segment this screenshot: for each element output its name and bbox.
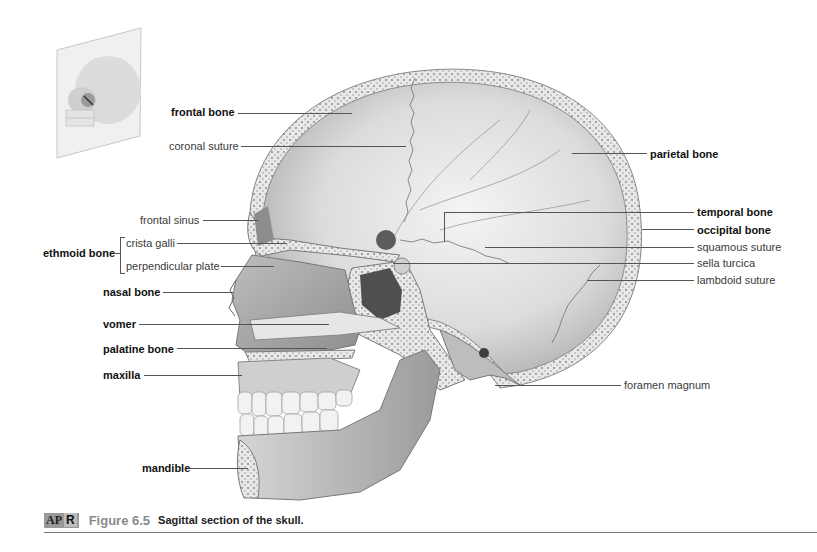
- leader-lambdoid-suture: [587, 280, 694, 281]
- leader-crista-galli: [177, 243, 287, 244]
- leader-temporal-bone: [444, 212, 694, 213]
- label-parietal-bone: parietal bone: [650, 148, 718, 161]
- apr-badge: APR: [44, 513, 79, 528]
- ethmoid-bracket: [120, 237, 125, 274]
- leader-occipital-bone: [642, 229, 694, 230]
- apr-badge-right: R: [64, 513, 77, 527]
- figure-title: Sagittal section of the skull.: [158, 514, 303, 526]
- skull-sagittal-illustration: [0, 0, 817, 552]
- label-foramen-magnum: foramen magnum: [624, 379, 710, 392]
- leader-frontal-bone: [238, 113, 352, 114]
- figure-caption: APR Figure 6.5 Sagittal section of the s…: [44, 512, 304, 528]
- label-perpendicular-plate: perpendicular plate: [126, 260, 220, 273]
- leader-palatine-bone: [177, 348, 327, 349]
- leader-coronal-suture: [241, 146, 406, 147]
- label-frontal-sinus: frontal sinus: [140, 214, 199, 227]
- leader-perpendicular-plate: [221, 266, 274, 267]
- leader-frontal-sinus: [203, 220, 258, 221]
- label-temporal-bone: temporal bone: [697, 206, 773, 219]
- label-coronal-suture: coronal suture: [169, 140, 239, 153]
- leader-sella-turcica: [393, 263, 694, 264]
- leader-vomer: [139, 324, 329, 325]
- label-palatine-bone: palatine bone: [103, 343, 174, 356]
- label-frontal-bone: frontal bone: [171, 106, 235, 119]
- label-nasal-bone: nasal bone: [103, 286, 160, 299]
- caption-divider: [44, 532, 817, 533]
- leader-squamous-suture: [485, 247, 694, 248]
- label-vomer: vomer: [103, 318, 136, 331]
- leader-mandible: [189, 468, 248, 469]
- label-squamous-suture: squamous suture: [697, 241, 781, 254]
- leader-maxilla: [144, 375, 242, 376]
- leader-nasal-bone: [163, 292, 233, 293]
- leader-temporal-bone-drop: [444, 212, 445, 242]
- label-sella-turcica: sella turcica: [697, 257, 755, 270]
- leader-parietal-bone: [572, 153, 647, 154]
- figure-number: Figure 6.5: [89, 513, 150, 528]
- leader-foramen-magnum: [495, 385, 621, 386]
- orientation-thumbnail: [57, 28, 141, 158]
- apr-badge-left: AP: [46, 513, 62, 528]
- label-occipital-bone: occipital bone: [697, 224, 771, 237]
- label-lambdoid-suture: lambdoid suture: [697, 274, 775, 287]
- label-crista-galli: crista galli: [126, 237, 175, 250]
- label-ethmoid-bone: ethmoid bone: [43, 247, 115, 260]
- label-mandible: mandible: [142, 462, 190, 475]
- label-maxilla: maxilla: [103, 369, 140, 382]
